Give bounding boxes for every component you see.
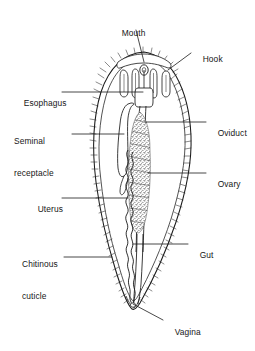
label-vagina-text: Vagina [175,327,201,337]
label-esophagus-text: Esophagus [24,98,67,108]
label-ovary-text: Ovary [218,179,241,189]
label-uterus-text: Uterus [38,204,63,214]
label-esophagus: Esophagus [14,87,67,119]
label-hook: Hook [193,43,223,75]
label-seminal-receptacle: Seminal receptacle [14,115,54,199]
label-vagina: Vagina [165,316,201,348]
label-chitinous-cuticle-line2: cuticle [22,291,58,302]
label-gut: Gut [190,239,214,271]
anatomy-figure: Mouth Hook Esophagus Oviduct Seminal rec… [0,0,255,351]
label-uterus: Uterus [28,193,63,225]
label-oviduct: Oviduct [208,117,247,149]
label-oviduct-text: Oviduct [218,128,247,138]
leader-hook [168,53,191,70]
label-gut-text: Gut [200,250,214,260]
label-mouth: Mouth [112,17,146,49]
label-hook-text: Hook [203,54,223,64]
label-mouth-text: Mouth [122,28,146,38]
label-chitinous-cuticle: Chitinous cuticle [22,238,58,322]
label-chitinous-cuticle-line1: Chitinous [22,259,58,270]
label-ovary: Ovary [208,168,241,200]
label-seminal-receptacle-line1: Seminal [14,136,54,147]
leader-vagina [133,304,163,320]
label-seminal-receptacle-line2: receptacle [14,168,54,179]
